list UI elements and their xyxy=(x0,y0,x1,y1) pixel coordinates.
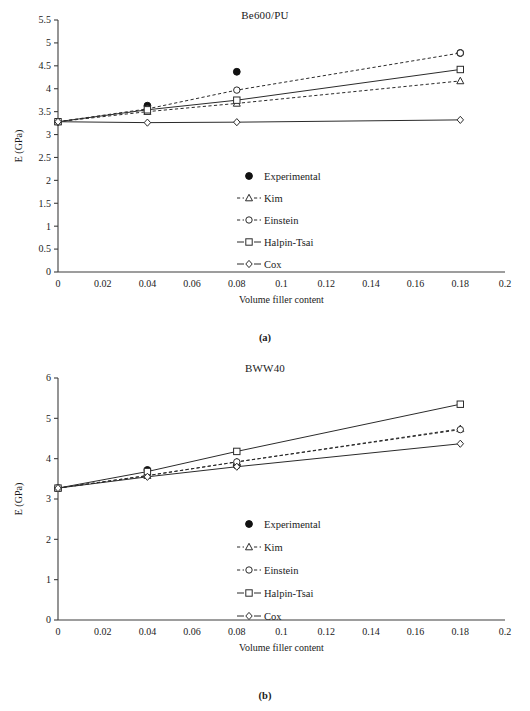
legend-marker xyxy=(246,543,253,550)
subcaption-b: (b) xyxy=(0,690,530,701)
data-point-kim xyxy=(457,77,464,84)
figure-panel-a: Be600/PU 00.511.522.533.544.555.500.020.… xyxy=(0,0,530,356)
figure-page: Be600/PU 00.511.522.533.544.555.500.020.… xyxy=(0,0,530,711)
legend-label: Kim xyxy=(264,193,283,204)
y-tick-label: 5 xyxy=(46,37,51,48)
legend-label: Experimental xyxy=(264,519,321,530)
chart-canvas-a: 00.511.522.533.544.555.500.020.040.060.0… xyxy=(0,0,530,330)
x-tick-label: 0.06 xyxy=(183,278,201,289)
legend-item-experimental[interactable]: Experimental xyxy=(246,519,321,530)
y-tick-label: 2.5 xyxy=(39,152,52,163)
x-tick-label: 0.08 xyxy=(228,278,246,289)
legend-marker xyxy=(246,612,252,619)
data-point-halpin-tsai xyxy=(457,66,463,72)
x-tick-label: 0.2 xyxy=(499,626,512,637)
legend-label: Einstein xyxy=(264,565,299,576)
x-axis-title: Volume filler content xyxy=(239,294,324,305)
legend-item-kim[interactable]: Kim xyxy=(237,193,283,204)
x-axis-title: Volume filler content xyxy=(239,642,324,653)
data-point-einstein xyxy=(234,87,240,93)
x-tick-label: 0.18 xyxy=(452,278,470,289)
chart-title-a: Be600/PU xyxy=(0,9,530,21)
x-tick-label: 0 xyxy=(56,626,61,637)
y-tick-label: 1 xyxy=(46,221,51,232)
y-tick-label: 1 xyxy=(46,574,51,585)
figure-panel-b: BWW40 012345600.020.040.060.080.10.120.1… xyxy=(0,356,530,711)
y-tick-label: 0.5 xyxy=(39,243,52,254)
y-tick-label: 2 xyxy=(46,175,51,186)
marker-square xyxy=(246,239,252,245)
x-tick-label: 0.08 xyxy=(228,626,246,637)
marker-square xyxy=(144,107,150,113)
data-point-cox xyxy=(457,440,463,447)
y-tick-label: 3 xyxy=(46,129,51,140)
marker-diamond xyxy=(246,612,252,619)
marker-circle xyxy=(246,217,252,223)
marker-diamond xyxy=(457,440,463,447)
data-point-cox xyxy=(234,119,240,126)
legend-item-cox[interactable]: Cox xyxy=(237,259,282,270)
series-line-halpin-tsai xyxy=(58,69,460,121)
y-tick-label: 4.5 xyxy=(39,60,52,71)
y-tick-label: 3 xyxy=(46,493,51,504)
legend-label: Halpin-Tsai xyxy=(264,588,314,599)
x-tick-label: 0.1 xyxy=(275,626,288,637)
x-tick-label: 0.14 xyxy=(362,278,380,289)
x-tick-label: 0.18 xyxy=(452,626,470,637)
y-tick-label: 0 xyxy=(46,614,51,625)
legend-item-einstein[interactable]: Einstein xyxy=(237,215,299,226)
y-tick-label: 3.5 xyxy=(39,106,52,117)
legend-item-experimental[interactable]: Experimental xyxy=(246,171,321,182)
legend-marker xyxy=(246,173,253,180)
y-tick-label: 4 xyxy=(46,453,51,464)
data-point-einstein xyxy=(457,426,463,432)
marker-triangle xyxy=(246,194,253,201)
x-tick-label: 0.12 xyxy=(317,626,335,637)
data-point-cox xyxy=(144,119,150,126)
data-point-einstein xyxy=(457,50,463,56)
y-tick-label: 4 xyxy=(46,83,51,94)
series-line-cox xyxy=(58,120,460,123)
series-line-einstein xyxy=(58,430,460,488)
data-point-halpin-tsai xyxy=(234,448,240,454)
marker-square xyxy=(457,66,463,72)
legend-item-einstein[interactable]: Einstein xyxy=(237,565,299,576)
marker-circle xyxy=(457,426,463,432)
legend-marker xyxy=(246,239,252,245)
chart-legend: ExperimentalKimEinsteinHalpin-TsaiCox xyxy=(237,519,321,622)
data-point-halpin-tsai xyxy=(144,107,150,113)
marker-square xyxy=(246,590,252,596)
marker-diamond xyxy=(144,119,150,126)
marker-square xyxy=(234,97,240,103)
series-line-cox xyxy=(58,444,460,488)
x-tick-label: 0 xyxy=(56,278,61,289)
marker-filled-circle xyxy=(246,521,253,528)
legend-item-kim[interactable]: Kim xyxy=(237,542,283,553)
x-tick-label: 0.12 xyxy=(317,278,335,289)
legend-marker xyxy=(246,567,252,573)
legend-label: Cox xyxy=(264,259,282,270)
legend-label: Halpin-Tsai xyxy=(264,237,314,248)
legend-marker xyxy=(246,260,252,267)
legend-marker xyxy=(246,590,252,596)
x-tick-label: 0.14 xyxy=(362,626,380,637)
series-line-halpin-tsai xyxy=(58,404,460,488)
x-tick-label: 0.2 xyxy=(499,278,512,289)
marker-diamond xyxy=(234,119,240,126)
legend-label: Kim xyxy=(264,542,283,553)
legend-item-halpin-tsai[interactable]: Halpin-Tsai xyxy=(237,237,314,248)
data-point-halpin-tsai xyxy=(457,401,463,407)
x-tick-label: 0.02 xyxy=(94,626,112,637)
y-axis-title: E (GPa) xyxy=(13,130,25,163)
y-tick-label: 0 xyxy=(46,266,51,277)
legend-marker xyxy=(246,194,253,201)
legend-label: Experimental xyxy=(264,171,321,182)
y-axis-title: E (GPa) xyxy=(13,483,25,516)
chart-canvas-b: 012345600.020.040.060.080.10.120.140.160… xyxy=(0,356,530,681)
marker-diamond xyxy=(246,260,252,267)
marker-filled-circle xyxy=(233,68,240,75)
x-tick-label: 0.02 xyxy=(94,278,112,289)
legend-item-halpin-tsai[interactable]: Halpin-Tsai xyxy=(237,588,314,599)
data-point-halpin-tsai xyxy=(234,97,240,103)
data-point-experimental xyxy=(233,68,240,75)
